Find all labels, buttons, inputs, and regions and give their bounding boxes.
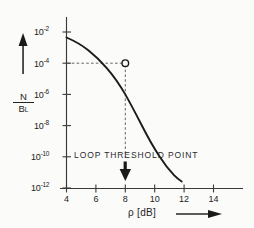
x-tick-label-4: 12 [177,195,191,204]
y-tick-label-3: 10-8 [34,120,49,131]
y-axis-direction-arrow-icon [19,33,28,74]
y-tick-label-5: 10-12 [31,182,49,193]
x-axis-title: ρ [dB] [128,208,156,218]
y-tick-label-0: 10-2 [34,26,49,37]
y-axis-title-denominator: BL [13,103,34,113]
y-tick-label-4: 10-10 [31,151,49,162]
threshold-down-arrow-icon [120,162,131,182]
loop-threshold-point-label: LOOP THRESHOLD POINT [74,151,198,160]
threshold-point-marker[interactable] [122,60,129,67]
y-tick-label-1: 10-4 [34,58,49,69]
x-tick-label-1: 6 [89,195,103,204]
figure-container: 10-2 10-4 10-6 10-8 10-10 10-12 4 6 8 10… [0,0,254,228]
y-axis-title: N BL [13,92,34,114]
x-axis-direction-arrow-icon [176,210,222,218]
x-tick-label-3: 10 [148,195,162,204]
x-tick-label-2: 8 [118,195,132,204]
x-tick-label-5: 14 [207,195,221,204]
y-tick-label-2: 10-6 [34,89,49,100]
x-tick-label-0: 4 [60,195,74,204]
y-axis-title-numerator: N [13,92,34,103]
